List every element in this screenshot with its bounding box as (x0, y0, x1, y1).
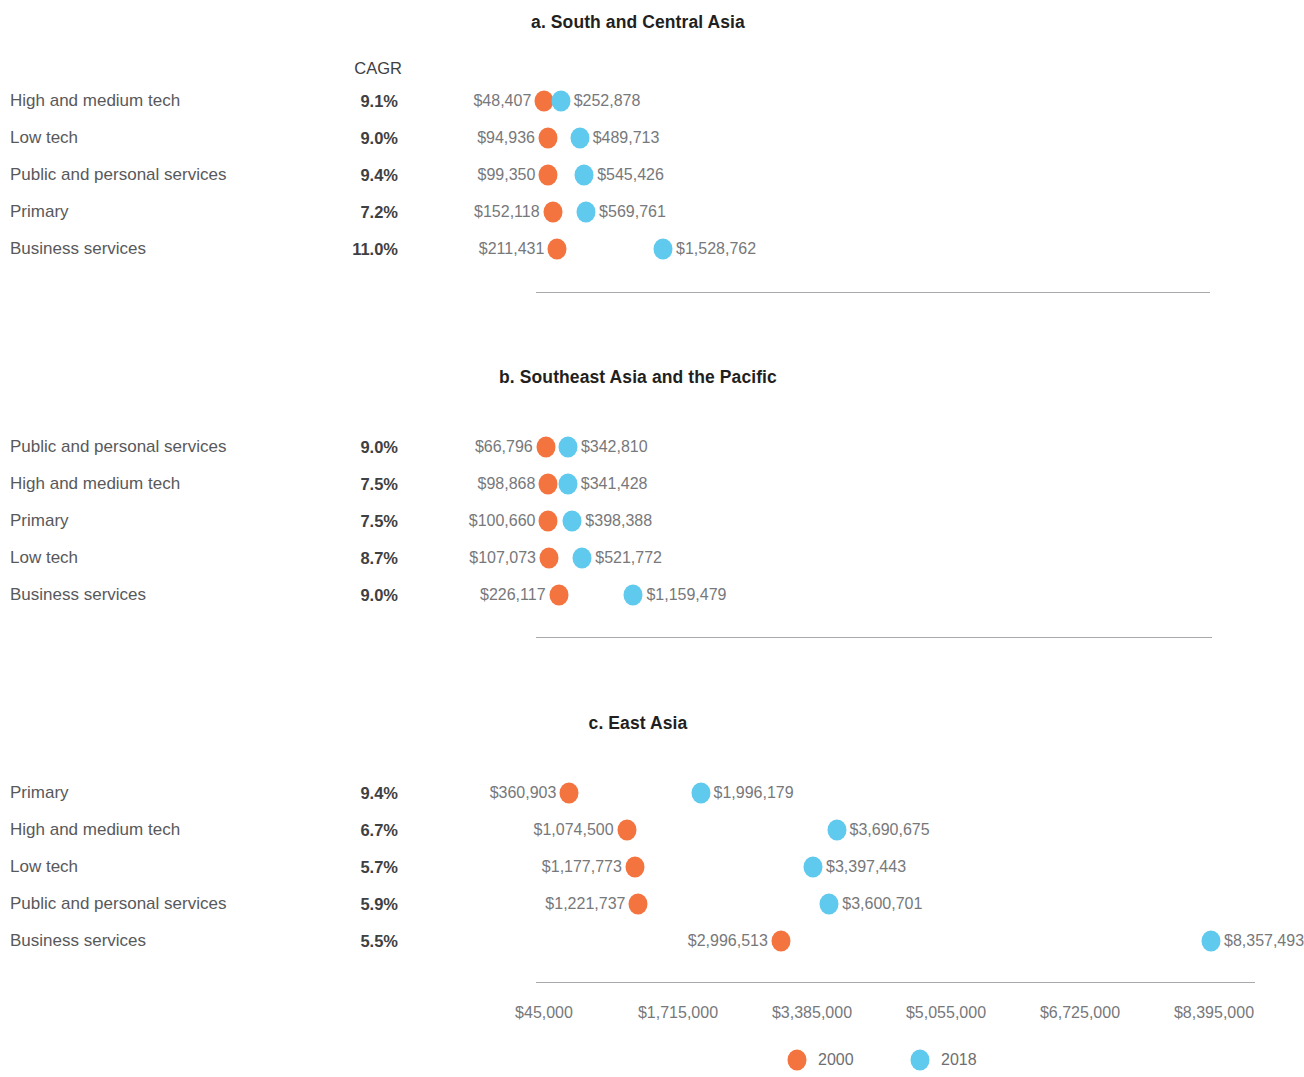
value-label-2000: $360,903 (490, 785, 557, 801)
dot-2000 (771, 931, 790, 952)
dot-2000 (539, 165, 558, 186)
value-label-2018: $3,690,675 (850, 822, 930, 838)
value-label-2018: $1,996,179 (714, 785, 794, 801)
dot-2018 (570, 128, 589, 149)
legend-label-2018: 2018 (941, 1051, 977, 1069)
value-label-2000: $1,074,500 (534, 822, 614, 838)
row-label: Public and personal services (10, 895, 226, 912)
value-label-2018: $3,600,701 (842, 896, 922, 912)
dot-2018 (1201, 931, 1220, 952)
legend-dot-2018 (911, 1050, 930, 1071)
dot-2000 (536, 437, 555, 458)
cagr-value: 5.7% (250, 859, 398, 876)
value-label-2018: $521,772 (595, 550, 662, 566)
value-label-2000: $211,431 (479, 241, 545, 257)
dot-2000 (539, 474, 558, 495)
row-label: Business services (10, 586, 146, 603)
dot-2018 (624, 585, 643, 606)
row-label: Low tech (10, 858, 78, 875)
dot-2000 (629, 894, 648, 915)
x-axis-tick: $1,715,000 (638, 1005, 718, 1021)
value-label-2000: $1,221,737 (545, 896, 625, 912)
cagr-value: 11.0% (250, 241, 398, 258)
dot-2018 (575, 165, 594, 186)
dot-2000 (539, 511, 558, 532)
value-label-2000: $98,868 (477, 476, 535, 492)
value-label-2000: $226,117 (480, 587, 546, 603)
value-label-2000: $99,350 (478, 167, 536, 183)
panel-title-c: c. East Asia (0, 713, 1280, 734)
panel-title-b: b. Southeast Asia and the Pacific (0, 367, 1280, 388)
dot-2000 (617, 820, 636, 841)
row-label: Business services (10, 240, 146, 257)
value-label-2018: $252,878 (574, 93, 641, 109)
dot-2018 (654, 239, 673, 260)
dot-2018 (820, 894, 839, 915)
value-label-2000: $66,796 (475, 439, 533, 455)
value-label-2000: $48,407 (473, 93, 531, 109)
dot-2000 (539, 548, 558, 569)
row-label: Public and personal services (10, 166, 226, 183)
cagr-value: 8.7% (250, 550, 398, 567)
cagr-column-header: CAGR (250, 60, 402, 77)
row-label: Public and personal services (10, 438, 226, 455)
value-label-2018: $1,528,762 (676, 241, 756, 257)
panel-title-text: c. East Asia (589, 713, 688, 734)
dot-2018 (577, 202, 596, 223)
value-label-2000: $100,660 (469, 513, 536, 529)
value-label-2018: $1,159,479 (646, 587, 726, 603)
dot-2000 (560, 783, 579, 804)
value-label-2018: $545,426 (597, 167, 664, 183)
panel-axis-line (536, 292, 1210, 293)
dot-2000 (548, 239, 567, 260)
dot-2018 (558, 437, 577, 458)
row-label: Business services (10, 932, 146, 949)
cagr-value: 5.5% (250, 933, 398, 950)
value-label-2000: $152,118 (474, 204, 540, 220)
row-label: Primary (10, 203, 69, 220)
cagr-value: 6.7% (250, 822, 398, 839)
panel-title-text: a. South and Central Asia (531, 12, 745, 33)
dot-2018 (563, 511, 582, 532)
dot-2018 (803, 857, 822, 878)
value-label-2018: $8,357,493 (1224, 933, 1304, 949)
panel-title-a: a. South and Central Asia (0, 12, 1280, 33)
x-axis-tick: $45,000 (515, 1005, 573, 1021)
cagr-value: 9.4% (250, 167, 398, 184)
legend-label-2000: 2000 (818, 1051, 854, 1069)
value-label-2000: $94,936 (477, 130, 535, 146)
row-label: High and medium tech (10, 92, 180, 109)
panel-title-text: b. Southeast Asia and the Pacific (499, 367, 777, 388)
cagr-value: 7.5% (250, 476, 398, 493)
dot-2000 (539, 128, 558, 149)
dot-2018 (558, 474, 577, 495)
cagr-value: 5.9% (250, 896, 398, 913)
x-axis-tick: $6,725,000 (1040, 1005, 1120, 1021)
dot-2018 (551, 91, 570, 112)
row-label: Primary (10, 512, 69, 529)
cagr-value: 9.0% (250, 130, 398, 147)
dot-2018 (573, 548, 592, 569)
dot-2000 (543, 202, 562, 223)
row-label: Low tech (10, 549, 78, 566)
value-label-2000: $1,177,773 (542, 859, 622, 875)
row-label: Primary (10, 784, 69, 801)
dot-2018 (827, 820, 846, 841)
cagr-value: 9.4% (250, 785, 398, 802)
x-axis-tick: $8,395,000 (1174, 1005, 1254, 1021)
cagr-value: 7.5% (250, 513, 398, 530)
value-label-2018: $398,388 (585, 513, 652, 529)
value-label-2018: $342,810 (581, 439, 648, 455)
row-label: High and medium tech (10, 821, 180, 838)
panel-axis-line (536, 637, 1212, 638)
value-label-2000: $2,996,513 (688, 933, 768, 949)
value-label-2018: $341,428 (581, 476, 648, 492)
value-label-2018: $3,397,443 (826, 859, 906, 875)
row-label: High and medium tech (10, 475, 180, 492)
row-label: Low tech (10, 129, 78, 146)
x-axis-tick: $5,055,000 (906, 1005, 986, 1021)
value-label-2018: $569,761 (599, 204, 666, 220)
dot-2000 (625, 857, 644, 878)
cagr-value: 9.0% (250, 587, 398, 604)
cagr-value: 7.2% (250, 204, 398, 221)
